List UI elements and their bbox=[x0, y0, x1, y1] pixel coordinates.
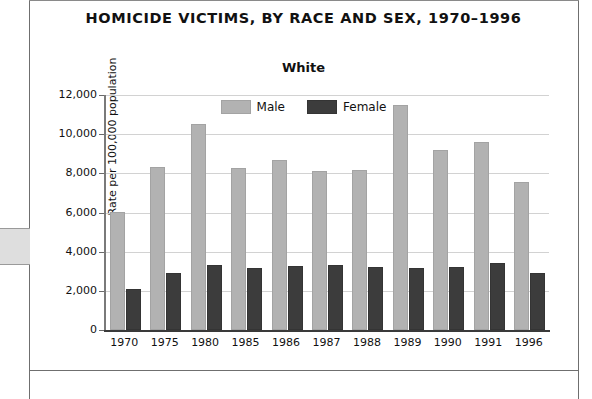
bar-male-1970 bbox=[110, 212, 125, 330]
y-tick-label: 10,000 bbox=[39, 127, 97, 140]
bar-female-1985 bbox=[247, 268, 262, 330]
bar-male-1987 bbox=[312, 171, 327, 330]
bar-female-1986 bbox=[288, 266, 303, 330]
chart-title: HOMICIDE VICTIMS, BY RACE AND SEX, 1970–… bbox=[29, 10, 578, 26]
bar-female-1990 bbox=[449, 267, 464, 330]
bar-male-1975 bbox=[150, 167, 165, 330]
chart-bars bbox=[104, 95, 549, 330]
bar-female-1970 bbox=[126, 289, 141, 330]
bar-male-1996 bbox=[514, 182, 529, 330]
page-border-right bbox=[578, 0, 579, 399]
bar-male-1988 bbox=[352, 170, 367, 330]
x-tick-label: 1996 bbox=[499, 336, 559, 349]
y-tick-label: 2,000 bbox=[39, 284, 97, 297]
bar-female-1996 bbox=[530, 273, 545, 330]
bar-male-1985 bbox=[231, 168, 246, 330]
y-tick-label: 4,000 bbox=[39, 245, 97, 258]
bar-male-1989 bbox=[393, 105, 408, 330]
bar-female-1987 bbox=[328, 265, 343, 330]
bar-male-1986 bbox=[272, 160, 287, 330]
bar-male-1990 bbox=[433, 150, 448, 330]
y-tick-label: 8,000 bbox=[39, 166, 97, 179]
chart-figure: HOMICIDE VICTIMS, BY RACE AND SEX, 1970–… bbox=[29, 0, 578, 370]
page-border-bottom bbox=[29, 370, 579, 371]
x-axis-line bbox=[104, 330, 550, 332]
page-thumb-tab bbox=[0, 228, 30, 265]
bar-male-1980 bbox=[191, 124, 206, 330]
bar-female-1989 bbox=[409, 268, 424, 330]
bar-female-1991 bbox=[490, 263, 505, 330]
y-tick-label: 12,000 bbox=[39, 88, 97, 101]
bar-male-1991 bbox=[474, 142, 489, 330]
bar-female-1975 bbox=[166, 273, 181, 330]
y-tick-label: 0 bbox=[39, 323, 97, 336]
y-tick-label: 6,000 bbox=[39, 206, 97, 219]
bar-female-1988 bbox=[368, 267, 383, 330]
bar-female-1980 bbox=[207, 265, 222, 330]
